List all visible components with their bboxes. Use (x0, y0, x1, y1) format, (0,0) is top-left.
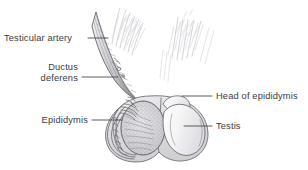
label-ductus-deferens-line1: Ductus (48, 62, 78, 72)
label-testis: Testis (216, 121, 241, 131)
label-head-of-epididymis: Head of epididymis (216, 91, 298, 101)
anatomy-figure: Testicular artery Ductus deferens Epidid… (0, 0, 308, 170)
anatomy-illustration: Testicular artery Ductus deferens Epidid… (0, 0, 308, 170)
label-ductus-deferens-line2: deferens (41, 73, 79, 83)
label-epididymis: Epididymis (42, 115, 89, 125)
sectioned-testis (121, 101, 165, 155)
pubic-hair (112, 8, 214, 82)
label-testicular-artery: Testicular artery (4, 33, 72, 43)
